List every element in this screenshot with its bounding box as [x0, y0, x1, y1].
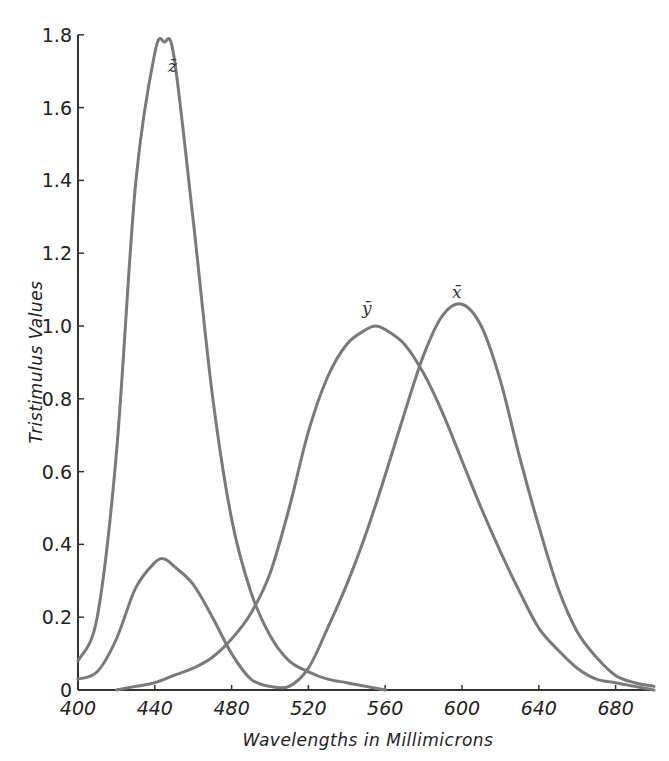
y-tick-label: 1.6 — [42, 97, 72, 119]
y-tick-label: 1.2 — [42, 242, 72, 264]
y-axis: 00.20.40.60.81.01.21.41.61.8 — [42, 24, 84, 701]
y-axis-title: Tristimulus Values — [26, 281, 46, 444]
curve-label-y-bar: ȳ — [361, 298, 372, 318]
x-tick-label: 600 — [444, 697, 480, 719]
x-tick-label: 560 — [367, 697, 403, 719]
curve-z-bar — [78, 38, 385, 690]
x-tick-label: 480 — [213, 697, 249, 719]
x-axis-title: Wavelengths in Millimicrons — [243, 730, 494, 750]
x-tick-label: 640 — [521, 697, 557, 719]
curve-label-x-bar: x̄ — [452, 282, 462, 302]
x-tick-label: 440 — [137, 697, 173, 719]
curve-label-z-bar: z̄ — [167, 56, 178, 76]
y-tick-label: 1.8 — [42, 24, 72, 46]
y-tick-label: 1.4 — [42, 169, 72, 191]
x-axis: 400440480520560600640680 — [60, 685, 654, 719]
y-tick-label: 0.4 — [42, 533, 72, 555]
y-tick-label: 1.0 — [42, 315, 72, 337]
x-tick-label: 400 — [60, 697, 96, 719]
x-tick-label: 520 — [290, 697, 326, 719]
curve-x-bar — [78, 304, 654, 688]
x-tick-label: 680 — [597, 697, 633, 719]
curves — [78, 38, 654, 690]
cie-tristimulus-chart: 00.20.40.60.81.01.21.41.61.8 40044048052… — [0, 0, 669, 761]
y-tick-label: 0.8 — [42, 388, 72, 410]
y-tick-label: 0.2 — [42, 606, 72, 628]
y-tick-label: 0.6 — [42, 461, 72, 483]
curve-y-bar — [116, 326, 654, 690]
